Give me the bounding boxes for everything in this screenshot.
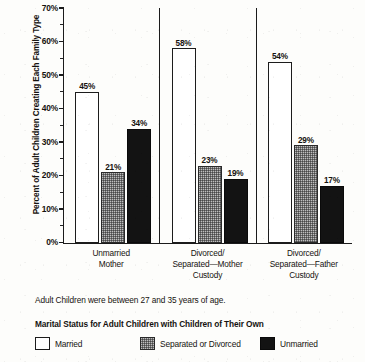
- legend-label: Separated or Divorced: [160, 339, 241, 349]
- legend-title: Marital Status for Adult Children with C…: [35, 319, 264, 329]
- y-tick-label: 20%: [18, 170, 58, 180]
- legend-label: Married: [55, 339, 82, 349]
- bar: 29%: [294, 145, 318, 242]
- y-tick-minor: [60, 225, 63, 226]
- y-tick-mark: [59, 108, 64, 109]
- bar-value-label: 23%: [202, 156, 218, 165]
- x-axis-group-label-line: Custody: [248, 270, 360, 281]
- y-tick-label: 70%: [18, 3, 58, 13]
- x-axis-group-label-line: Divorced/: [248, 248, 360, 259]
- x-axis-group-label: Divorced/Separated—FatherCustody: [248, 248, 360, 280]
- bar: 23%: [198, 166, 222, 243]
- y-tick-minor: [60, 58, 63, 59]
- y-tick-label: 0%: [18, 237, 58, 247]
- y-tick-label: 30%: [18, 137, 58, 147]
- bar-value-label: 19%: [228, 169, 244, 178]
- y-tick-mark: [59, 141, 64, 142]
- y-tick-label: 60%: [18, 36, 58, 46]
- legend-swatch: [35, 337, 50, 350]
- group-separator: [159, 8, 160, 243]
- bar: 54%: [268, 62, 292, 243]
- y-tick-mark: [59, 208, 64, 209]
- y-tick-minor: [60, 158, 63, 159]
- y-tick-label: 10%: [18, 204, 58, 214]
- legend: MarriedSeparated or DivorcedUnmarried: [35, 337, 355, 353]
- y-tick-minor: [60, 24, 63, 25]
- x-axis-group-label-line: Separated—Father: [248, 259, 360, 270]
- y-tick-mark: [59, 7, 64, 8]
- bar-value-label: 45%: [79, 82, 95, 91]
- bar-chart-figure: Percent of Adult Children Creating Each …: [0, 0, 365, 362]
- legend-swatch: [140, 337, 155, 350]
- bar: 21%: [101, 172, 125, 242]
- plot-area: 70%60%50%40%30%20%10%0% 45%21%34%58%23%1…: [63, 8, 352, 244]
- y-axis-title: Percent of Adult Children Creating Each …: [32, 0, 41, 235]
- y-tick-label: 50%: [18, 70, 58, 80]
- y-tick-minor: [60, 125, 63, 126]
- y-tick-minor: [60, 192, 63, 193]
- legend-item[interactable]: Unmarried: [260, 337, 318, 350]
- y-tick-mark: [59, 242, 64, 243]
- y-tick-mark: [59, 74, 64, 75]
- y-tick-mark: [59, 41, 64, 42]
- legend-item[interactable]: Married: [35, 337, 82, 350]
- bar: 58%: [172, 48, 196, 242]
- bar-value-label: 29%: [298, 136, 314, 145]
- bar: 34%: [127, 129, 151, 243]
- bar: 45%: [75, 92, 99, 243]
- legend-item[interactable]: Separated or Divorced: [140, 337, 241, 350]
- group-separator: [256, 8, 257, 243]
- bar-value-label: 34%: [131, 119, 147, 128]
- bar-value-label: 17%: [324, 176, 340, 185]
- y-tick-minor: [60, 91, 63, 92]
- bar-value-label: 21%: [105, 163, 121, 172]
- chart-footnote: Adult Children were between 27 and 35 ye…: [35, 295, 225, 305]
- bar-value-label: 58%: [176, 39, 192, 48]
- bar: 19%: [224, 179, 248, 243]
- legend-label: Unmarried: [280, 339, 318, 349]
- y-tick-label: 40%: [18, 103, 58, 113]
- legend-swatch: [260, 337, 275, 350]
- bar: 17%: [320, 186, 344, 243]
- x-axis-line: [63, 243, 352, 244]
- y-tick-mark: [59, 175, 64, 176]
- bar-value-label: 54%: [272, 52, 288, 61]
